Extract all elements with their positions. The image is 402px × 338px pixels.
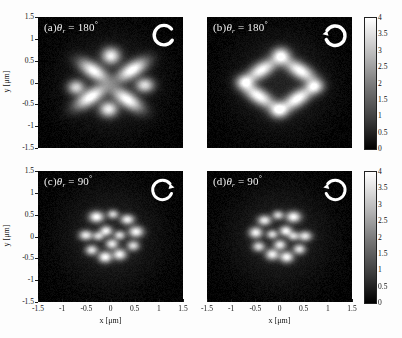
panel-c-equals: = bbox=[68, 175, 74, 187]
panel-d: (d)θr = 90° bbox=[207, 171, 352, 302]
colorbar-tick-label: 2.5 bbox=[378, 62, 387, 71]
rotation-arrow-clockwise-icon bbox=[149, 20, 179, 50]
colorbar-bottom bbox=[364, 171, 377, 304]
y-tick-mark bbox=[35, 302, 38, 303]
colorbar-tick-label: 4 bbox=[378, 167, 382, 176]
y-tick-label: 1 bbox=[0, 188, 34, 197]
panel-d-tag: (d) bbox=[213, 175, 226, 187]
panel-d-value: 90 bbox=[247, 175, 258, 187]
x-tick-mark bbox=[159, 299, 160, 302]
panel-b-label: (b)θr = 180° bbox=[213, 20, 268, 35]
x-tick-label: -1.5 bbox=[32, 304, 44, 313]
x-axis-title: x [μm] bbox=[38, 316, 183, 325]
panel-c-degree: ° bbox=[89, 174, 92, 183]
x-tick-label: 0.5 bbox=[130, 304, 139, 313]
x-tick-label: -1 bbox=[59, 304, 65, 313]
panel-a-equals: = bbox=[68, 21, 74, 33]
panel-a-label: (a)θr = 180° bbox=[44, 20, 98, 35]
panel-b-subscript: r bbox=[232, 27, 235, 35]
y-tick-mark bbox=[35, 148, 38, 149]
y-tick-mark bbox=[35, 193, 38, 194]
x-tick-label: 1 bbox=[326, 304, 330, 313]
figure-root: (a)θr = 180° (b)θr = 180° (c)θr = 90° (d… bbox=[0, 0, 402, 338]
x-tick-label: 1.5 bbox=[178, 304, 187, 313]
colorbar-tick-label: 1.5 bbox=[378, 248, 387, 257]
panel-d-subscript: r bbox=[232, 181, 235, 189]
colorbar-tick-label: 4 bbox=[378, 13, 382, 22]
y-tick-mark bbox=[35, 104, 38, 105]
x-axis-title: x [μm] bbox=[207, 316, 352, 325]
y-tick-label: -0.5 bbox=[0, 253, 34, 262]
y-tick-mark bbox=[35, 126, 38, 127]
x-tick-label: 1.5 bbox=[347, 304, 356, 313]
x-tick-label: -1 bbox=[228, 304, 234, 313]
x-tick-label: 0 bbox=[278, 304, 282, 313]
y-tick-mark bbox=[35, 39, 38, 40]
x-tick-mark bbox=[304, 299, 305, 302]
x-tick-mark bbox=[255, 299, 256, 302]
rotation-arrow-counterclockwise-icon bbox=[318, 174, 348, 204]
y-tick-mark bbox=[35, 280, 38, 281]
x-tick-label: -0.5 bbox=[80, 304, 92, 313]
colorbar-tick-label: 3 bbox=[378, 45, 382, 54]
colorbar-tick-label: 0 bbox=[378, 298, 382, 307]
y-tick-label: 1 bbox=[0, 34, 34, 43]
panel-c-tag: (c) bbox=[44, 175, 57, 187]
y-tick-label: -0.5 bbox=[0, 99, 34, 108]
x-tick-mark bbox=[280, 299, 281, 302]
y-tick-label: -1 bbox=[0, 121, 34, 130]
panel-c-label: (c)θr = 90° bbox=[44, 174, 92, 189]
y-axis-title: y [μm] bbox=[2, 64, 11, 98]
panel-c: (c)θr = 90° bbox=[38, 171, 183, 302]
panel-b-degree: ° bbox=[264, 20, 267, 29]
panel-d-label: (d)θr = 90° bbox=[213, 174, 262, 189]
x-tick-mark bbox=[38, 299, 39, 302]
y-tick-mark bbox=[35, 17, 38, 18]
panel-a-tag: (a) bbox=[44, 21, 57, 33]
panel-a-subscript: r bbox=[62, 27, 65, 35]
x-tick-mark bbox=[86, 299, 87, 302]
colorbar-tick-label: 1 bbox=[378, 265, 382, 274]
y-tick-label: -1.5 bbox=[0, 297, 34, 306]
x-tick-label: 0 bbox=[109, 304, 113, 313]
panel-b-tag: (b) bbox=[213, 21, 226, 33]
colorbar-tick-label: 1 bbox=[378, 111, 382, 120]
colorbar-tick-label: 1.5 bbox=[378, 94, 387, 103]
panel-a: (a)θr = 180° bbox=[38, 17, 183, 148]
colorbar-tick-label: 2.5 bbox=[378, 216, 387, 225]
panel-b: (b)θr = 180° bbox=[207, 17, 352, 148]
panel-c-value: 90 bbox=[78, 175, 89, 187]
colorbar-tick-label: 3.5 bbox=[378, 29, 387, 38]
x-tick-mark bbox=[352, 299, 353, 302]
panel-c-subscript: r bbox=[62, 181, 65, 189]
y-tick-label: 0.5 bbox=[0, 210, 34, 219]
x-tick-mark bbox=[328, 299, 329, 302]
panel-a-value: 180 bbox=[78, 21, 95, 33]
colorbar-tick-label: 3 bbox=[378, 199, 382, 208]
rotation-arrow-clockwise-icon bbox=[149, 174, 179, 204]
x-tick-label: 0.5 bbox=[299, 304, 308, 313]
colorbar-top bbox=[364, 17, 377, 150]
x-tick-mark bbox=[62, 299, 63, 302]
x-tick-mark bbox=[207, 299, 208, 302]
colorbar-tick-label: 0.5 bbox=[378, 127, 387, 136]
x-tick-mark bbox=[135, 299, 136, 302]
colorbar-tick-label: 3.5 bbox=[378, 183, 387, 192]
x-tick-mark bbox=[183, 299, 184, 302]
colorbar-tick-label: 2 bbox=[378, 232, 382, 241]
y-tick-mark bbox=[35, 171, 38, 172]
colorbar-tick-label: 0.5 bbox=[378, 281, 387, 290]
x-tick-mark bbox=[231, 299, 232, 302]
y-tick-mark bbox=[35, 215, 38, 216]
y-tick-mark bbox=[35, 237, 38, 238]
y-tick-label: -1.5 bbox=[0, 143, 34, 152]
y-tick-mark bbox=[35, 258, 38, 259]
y-tick-label: 1.5 bbox=[0, 166, 34, 175]
y-axis-title: y [μm] bbox=[2, 218, 11, 252]
x-tick-label: -0.5 bbox=[249, 304, 261, 313]
y-tick-mark bbox=[35, 83, 38, 84]
panel-a-degree: ° bbox=[95, 20, 98, 29]
y-tick-label: 0.5 bbox=[0, 56, 34, 65]
panel-b-equals: = bbox=[238, 21, 244, 33]
y-tick-label: -1 bbox=[0, 275, 34, 284]
